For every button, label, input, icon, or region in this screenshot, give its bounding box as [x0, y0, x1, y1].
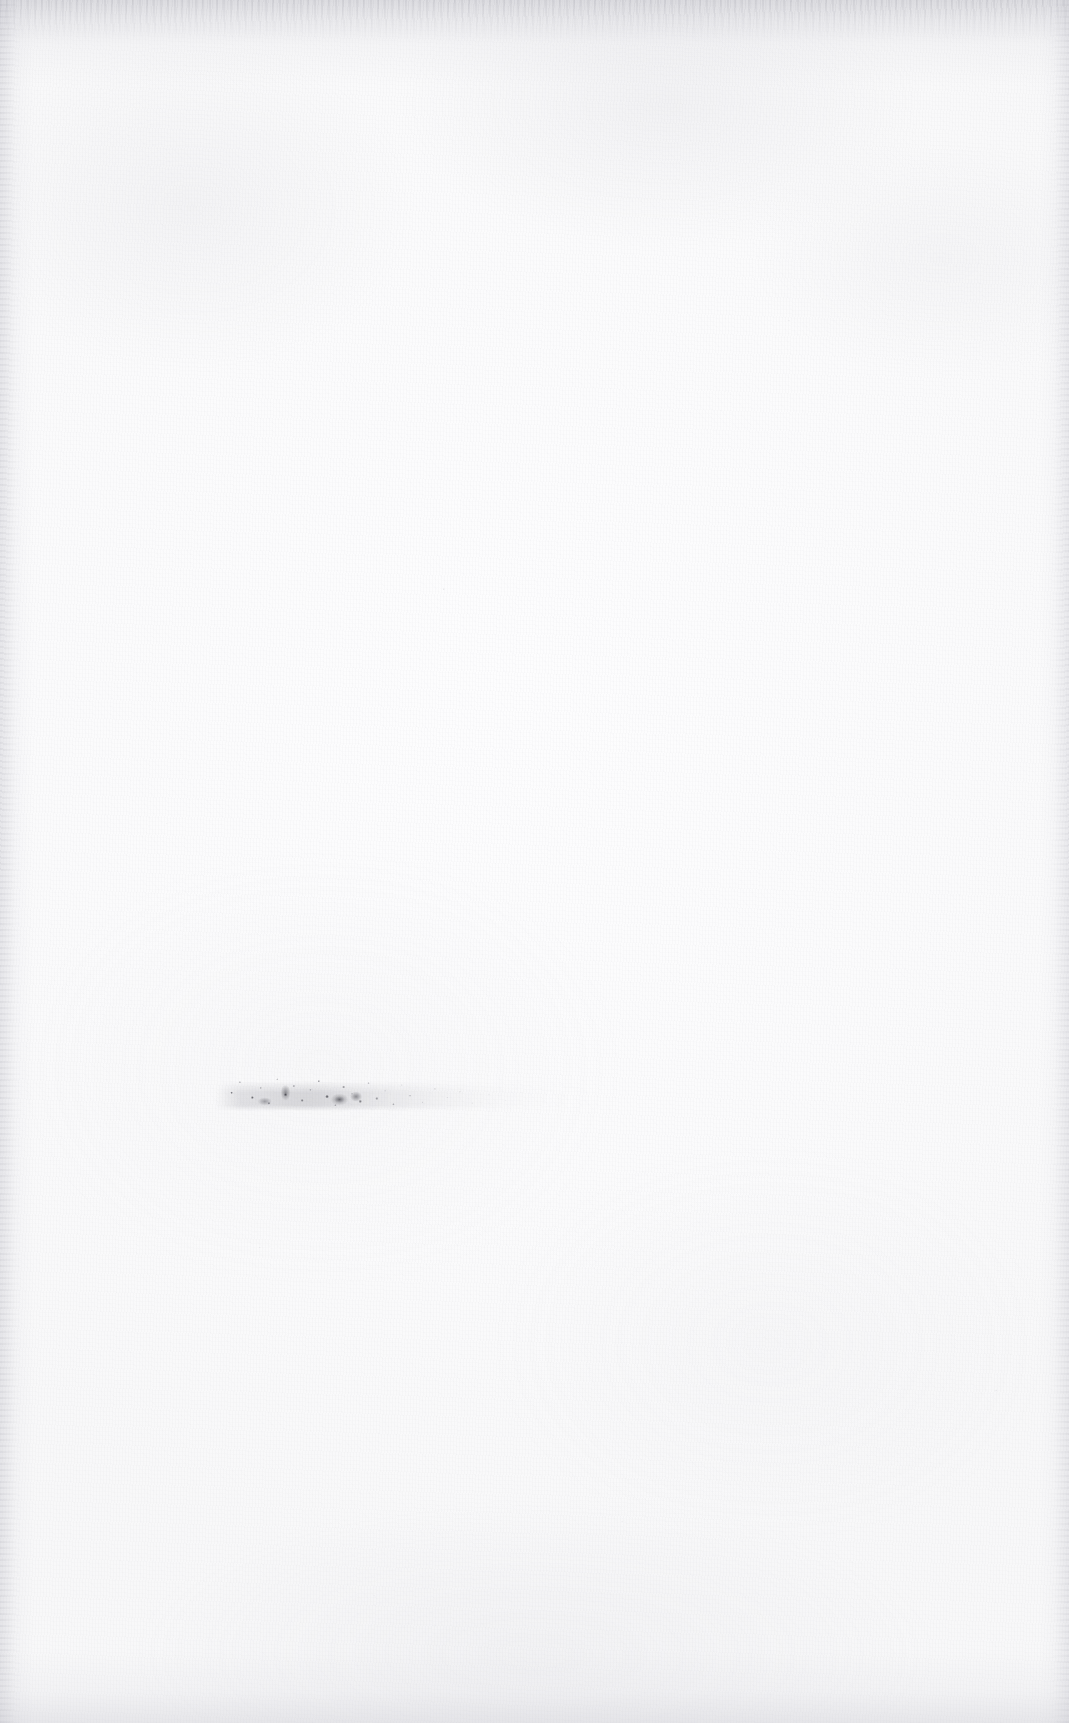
faded-text-blots	[215, 1063, 630, 1111]
faded-text-line	[215, 1063, 630, 1111]
stray-dust-specks	[0, 0, 1069, 1723]
scanned-page	[0, 0, 1069, 1723]
faded-text-ink	[215, 1063, 630, 1111]
